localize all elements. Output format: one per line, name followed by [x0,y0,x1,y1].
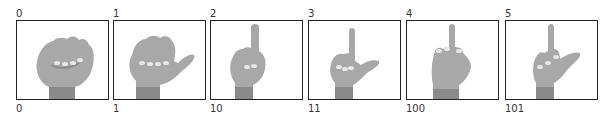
decimal-label: 1 [113,9,119,19]
decimal-label: 4 [406,9,412,19]
index-up-hand-icon [211,21,302,99]
middle-thumb-hand-icon [506,21,597,99]
fist-hand-icon [17,21,108,99]
panel-4: 4 100 [406,0,502,123]
hand-frame [308,20,401,100]
hand-frame [210,20,303,100]
binary-label: 11 [308,104,321,114]
panel-5: 5 101 [505,0,601,123]
thumb-out-hand-icon [114,21,205,99]
decimal-label: 5 [505,9,511,19]
hand-frame [406,20,499,100]
hand-frame [505,20,598,100]
hand-frame [16,20,109,100]
decimal-label: 0 [16,9,22,19]
panel-2: 2 10 [210,0,306,123]
binary-label: 10 [210,104,223,114]
binary-label: 1 [113,104,119,114]
panel-0: 0 0 [16,0,112,123]
panel-1: 1 1 [113,0,209,123]
middle-up-hand-icon [407,21,498,99]
binary-label: 0 [16,104,22,114]
binary-label: 100 [406,104,425,114]
decimal-label: 3 [308,9,314,19]
hand-frame [113,20,206,100]
binary-label: 101 [505,104,524,114]
panel-3: 3 11 [308,0,404,123]
index-thumb-hand-icon [309,21,400,99]
decimal-label: 2 [210,9,216,19]
